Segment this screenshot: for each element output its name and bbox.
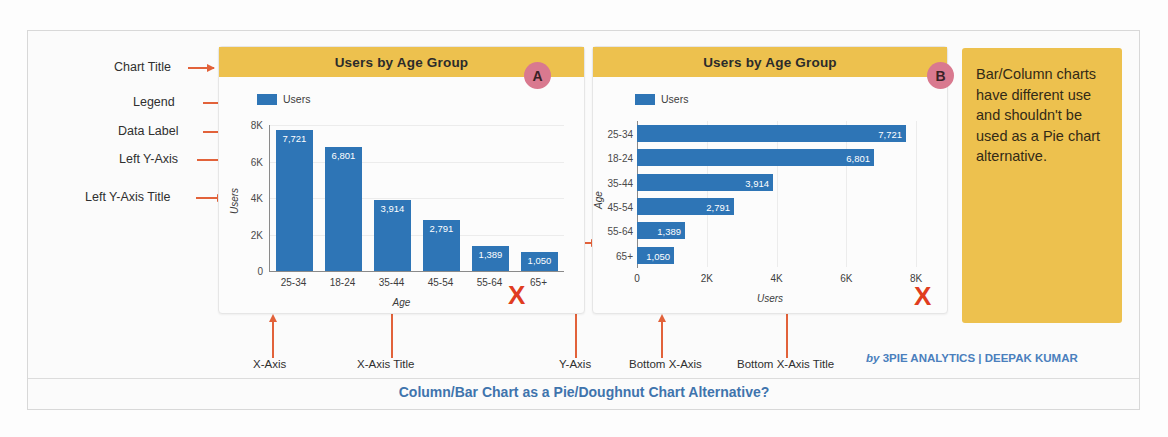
chart-a-x-axis-line [269,271,564,272]
chart-b-ytick-18-24: 18-24 [597,152,633,163]
chart-b-xtick-4k: 4K [763,273,791,284]
legend-swatch-users [257,94,277,105]
credit-brand: 3PIE ANALYTICS | DEEPAK KUMAR [883,352,1078,364]
data-label-35-44: 3,914 [374,203,411,214]
bar-55-64[interactable]: 1,389 [472,246,509,271]
data-label-55-64: 1,389 [472,249,509,260]
annotation-chart-title: Chart Title [114,60,171,74]
gridline-2k [707,121,708,267]
chart-a-xtick-18-24: 18-24 [318,277,367,288]
data-label-25-34: 7,721 [276,133,313,144]
chart-card-b: Users by Age Group Users 7,721 6,801 3,9… [592,46,948,314]
annotation-y-axis: Y-Axis [559,358,591,370]
footer-divider [28,378,1139,379]
data-label-45-54: 2,791 [423,223,460,234]
chart-a-plot-area: 7,721 6,801 3,914 2,791 1,389 1,050 [269,125,564,271]
chart-b-xtick-0: 0 [623,273,651,284]
bar-25-34[interactable]: 7,721 [637,125,906,142]
credit-line: by 3PIE ANALYTICS | DEEPAK KUMAR [866,352,1078,364]
bar-45-54[interactable]: 2,791 [637,198,734,215]
annotation-left-y-axis-title: Left Y-Axis Title [85,190,170,204]
data-label-55-64: 1,389 [657,225,681,236]
gridline-6k [269,162,564,163]
x-mark-left: X [508,282,525,308]
footer-title: Column/Bar Chart as a Pie/Doughnut Chart… [0,384,1168,400]
bar-25-34[interactable]: 7,721 [276,130,313,271]
chart-b-x-axis-title: Users [593,293,947,304]
annotation-x-axis: X-Axis [253,358,286,370]
annotation-legend: Legend [133,95,175,109]
gridline-8k [916,121,917,267]
chart-b-y-axis-line [637,121,638,268]
gridline-8k [269,125,564,126]
annotation-bottom-x-axis-title: Bottom X-Axis Title [737,358,834,370]
arrow-x-axis [272,322,274,358]
gridline-6k [846,121,847,267]
bar-65-plus[interactable]: 1,050 [521,252,558,271]
gridline-4k [269,198,564,199]
data-label-18-24: 6,801 [325,150,362,161]
badge-a: A [524,62,551,89]
legend-swatch-users [635,94,655,105]
gridline-4k [777,121,778,267]
bar-18-24[interactable]: 6,801 [325,147,362,271]
arrow-x-axis-title [391,310,393,358]
chart-a-xtick-45-54: 45-54 [416,277,465,288]
note-text: Bar/Column charts have different use and… [976,64,1108,167]
legend-label-users: Users [661,93,688,105]
chart-a-y-axis-line [269,125,270,272]
chart-a-x-axis-title: Age [219,297,584,308]
chart-a-ytick-2k: 2K [233,229,263,240]
data-label-45-54: 2,791 [706,201,730,212]
credit-prefix: by [866,352,883,364]
data-label-25-34: 7,721 [878,128,902,139]
legend-label-users: Users [283,93,310,105]
chart-b-y-axis-title: Age [593,191,604,209]
chart-b-plot-area: 7,721 6,801 3,914 2,791 1,389 1,050 [637,121,916,267]
infographic-canvas: Chart Title Legend Data Label Left Y-Axi… [0,0,1168,437]
bar-35-44[interactable]: 3,914 [637,174,773,191]
chart-b-ytick-55-64: 55-64 [597,225,633,236]
data-label-65-plus: 1,050 [646,250,670,261]
badge-b: B [927,62,954,89]
chart-a-y-axis-title: Users [229,188,240,214]
x-mark-right: X [914,283,931,309]
data-label-35-44: 3,914 [745,177,769,188]
data-label-65-plus: 1,050 [521,255,558,266]
annotation-x-axis-title: X-Axis Title [357,358,415,370]
chart-b-xtick-6k: 6K [832,273,860,284]
bar-65-plus[interactable]: 1,050 [637,247,674,264]
chart-b-title-bar: Users by Age Group [593,47,947,77]
chart-a-ytick-8k: 8K [233,120,263,131]
annotation-data-label: Data Label [118,124,178,138]
chart-a-xtick-25-34: 25-34 [269,277,318,288]
data-label-18-24: 6,801 [846,152,870,163]
chart-a-xtick-35-44: 35-44 [367,277,416,288]
annotation-left-y-axis: Left Y-Axis [119,152,178,166]
bar-45-54[interactable]: 2,791 [423,220,460,271]
bar-35-44[interactable]: 3,914 [374,200,411,271]
chart-b-ytick-35-44: 35-44 [597,177,633,188]
bar-18-24[interactable]: 6,801 [637,149,874,166]
chart-b-legend[interactable]: Users [635,93,688,105]
chart-b-xtick-2k: 2K [693,273,721,284]
note-box: Bar/Column charts have different use and… [962,48,1122,323]
gridline-2k [269,235,564,236]
bar-55-64[interactable]: 1,389 [637,222,685,239]
chart-a-ytick-0: 0 [233,266,263,277]
chart-a-legend[interactable]: Users [257,93,310,105]
annotation-bottom-x-axis: Bottom X-Axis [629,358,702,370]
chart-a-title: Users by Age Group [335,55,469,70]
chart-b-title: Users by Age Group [703,55,837,70]
chart-b-ytick-65-plus: 65+ [597,250,633,261]
arrow-bottom-x-axis-title [786,310,788,358]
arrow-bottom-x-axis [661,322,663,358]
chart-a-xtick-55-64: 55-64 [465,277,514,288]
chart-b-ytick-25-34: 25-34 [597,128,633,139]
arrow-chart-title [188,67,214,69]
chart-a-ytick-6k: 6K [233,156,263,167]
